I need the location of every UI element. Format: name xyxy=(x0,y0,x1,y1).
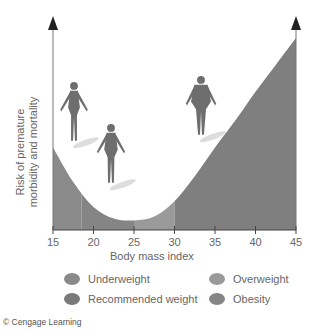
obesity-swatch xyxy=(209,293,225,305)
region-recommended-weight xyxy=(81,0,134,230)
region-overweight xyxy=(134,0,175,230)
x-tick-label: 15 xyxy=(47,236,59,248)
y-axis-arrow-icon xyxy=(48,16,58,30)
right-axis-arrow-icon xyxy=(291,16,301,30)
x-tick-label: 20 xyxy=(87,236,99,248)
overweight-swatch xyxy=(209,273,225,285)
x-axis-label: Body mass index xyxy=(110,250,194,262)
heavy-figure-icon xyxy=(186,76,227,144)
x-tick-label: 25 xyxy=(128,236,140,248)
thin-figure-icon xyxy=(60,82,99,150)
x-tick-label: 30 xyxy=(168,236,180,248)
region-obesity xyxy=(175,0,297,230)
underweight-swatch xyxy=(64,273,80,285)
legend-item-obesity: Obesity xyxy=(209,293,270,305)
copyright-credit: © Cengage Learning xyxy=(3,317,82,327)
bmi-category-regions xyxy=(53,0,296,230)
average-figure-icon xyxy=(97,124,137,192)
x-tick-label: 35 xyxy=(209,236,221,248)
x-tick-label: 40 xyxy=(249,236,261,248)
legend-item-recommended-weight: Recommended weight xyxy=(64,293,197,305)
recommended-weight-swatch xyxy=(64,293,80,305)
legend-item-underweight: Underweight xyxy=(64,273,150,285)
region-underweight xyxy=(53,0,81,230)
legend-item-overweight: Overweight xyxy=(209,273,289,285)
x-tick-label: 45 xyxy=(290,236,302,248)
y-axis-label: Risk of premature morbidity and mortalit… xyxy=(14,97,40,208)
